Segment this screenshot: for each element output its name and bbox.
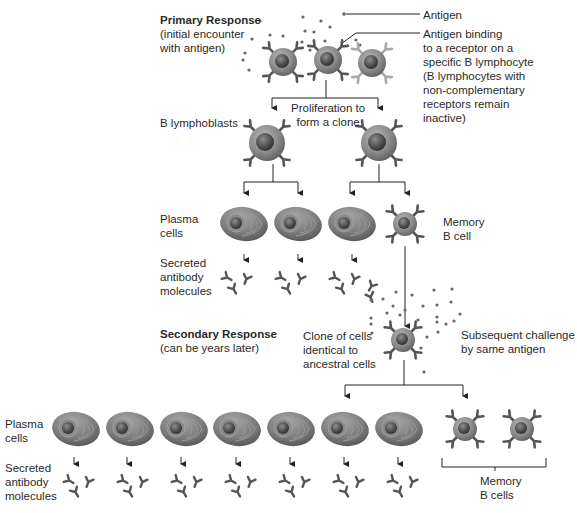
memory-b-cells-label: Memory B cells	[480, 474, 522, 502]
memory-line-1: Memory	[443, 216, 485, 228]
memory-b-cell-secondary-1	[447, 411, 484, 448]
plasma-cell-primary-2	[272, 204, 324, 244]
antibody2-line-2: antibody	[5, 476, 48, 488]
binding-line-2: to a receptor on a	[423, 42, 513, 54]
primary-subheading-1: (initial encounter	[160, 28, 244, 40]
antigen-marker	[342, 12, 346, 16]
antibody2-line-3: molecules	[5, 490, 57, 502]
memory-b-cell-secondary-2	[504, 411, 541, 448]
plasma2-line-2: cells	[5, 432, 28, 444]
primary-subheading-2: with antigen)	[160, 42, 225, 54]
antibody-line-1: Secreted	[160, 257, 206, 269]
binding-line-5: non-complementary	[423, 84, 525, 96]
memory-line-2: B cell	[443, 230, 471, 242]
antigen-dots-secondary	[369, 287, 461, 373]
plasma-cell-primary-1	[218, 204, 270, 244]
antigen-label: Antigen	[423, 8, 462, 22]
b-lymphocyte-activated	[308, 40, 348, 80]
memory-cells-bracket	[442, 458, 546, 471]
plasma-cells-label-primary: Plasma cells	[160, 212, 198, 240]
antibody-line-3: molecules	[160, 285, 212, 297]
memory-b-cell-primary	[387, 206, 424, 243]
challenge-line-1: Subsequent challenge	[461, 329, 575, 341]
plasma-cells-label-secondary: Plasma cells	[5, 417, 43, 445]
binding-line-4: (B lymphocytes with	[423, 70, 525, 82]
secondary-subheading: (can be years later)	[160, 342, 259, 354]
plasma-cell-primary-3	[326, 204, 378, 244]
binding-line-6: receptors remain	[423, 98, 509, 110]
binding-leader-line	[341, 33, 420, 44]
secretion-arrows-primary	[244, 254, 352, 260]
antibody-label-primary: Secreted antibody molecules	[160, 256, 212, 298]
memory-b-cell-label: Memory B cell	[443, 215, 485, 243]
primary-response-heading: Primary Response (initial encounter with…	[160, 13, 261, 55]
binding-line-7: inactive)	[423, 112, 466, 124]
b-lymphocyte-right	[352, 43, 392, 83]
clone-line-3: ancestral cells	[303, 358, 376, 370]
antibody2-line-1: Secreted	[5, 462, 51, 474]
clone-label: Clone of cells identical to ancestral ce…	[303, 329, 376, 371]
clone-line-2: identical to	[303, 344, 358, 356]
antibody-line-2: antibody	[160, 271, 203, 283]
plasma-line-2: cells	[160, 227, 183, 239]
proliferation-label: Proliferation to form a clone	[291, 101, 365, 129]
secondary-response-heading: Secondary Response (can be years later)	[160, 327, 277, 355]
b-lymphoblasts-label: B lymphoblasts	[160, 116, 238, 130]
memory2-line-1: Memory	[480, 475, 522, 487]
proliferation-line-2: form a clone	[296, 116, 359, 128]
secretion-arrows-secondary	[74, 457, 398, 464]
plasma2-line-1: Plasma	[5, 418, 43, 430]
binding-line-1: Antigen binding	[423, 28, 502, 40]
clone-line-1: Clone of cells	[303, 330, 372, 342]
memory-b-cell-activated	[385, 322, 422, 359]
secondary-heading-text: Secondary Response	[160, 328, 277, 340]
binding-line-3: specific B lymphocyte	[423, 56, 534, 68]
differentiation-arrows	[244, 164, 405, 193]
antibody-molecules-secondary	[64, 475, 418, 498]
memory2-line-2: B cells	[480, 489, 514, 501]
challenge-line-2: by same antigen	[461, 343, 545, 355]
subsequent-challenge-label: Subsequent challenge by same antigen	[461, 328, 575, 356]
antigen-binding-label: Antigen binding to a receptor on a speci…	[423, 27, 534, 125]
plasma-cells-secondary	[50, 409, 425, 449]
b-lymphoblast-left	[244, 120, 289, 165]
antibody-label-secondary: Secreted antibody molecules	[5, 461, 57, 503]
plasma-line-1: Plasma	[160, 213, 198, 225]
proliferation-line-1: Proliferation to	[291, 102, 365, 114]
antibody-molecules-primary	[222, 272, 377, 303]
b-lymphocyte-left	[263, 42, 303, 82]
primary-heading-text: Primary Response	[160, 14, 261, 26]
